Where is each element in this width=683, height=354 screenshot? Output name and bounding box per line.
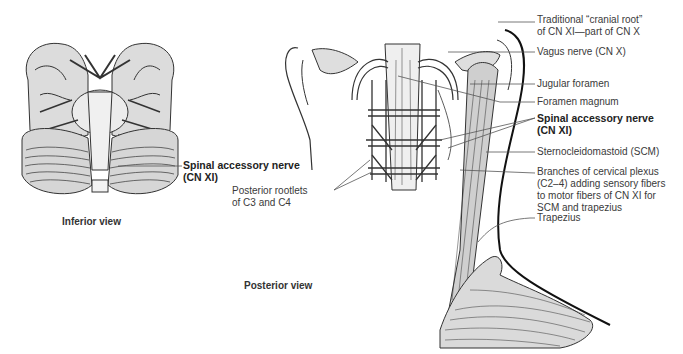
label-cervical-plexus: Branches of cervical plexus (C2–4) addin… bbox=[537, 166, 665, 214]
caption-posterior-view: Posterior view bbox=[244, 280, 312, 291]
label-line: Traditional “cranial root” bbox=[537, 14, 642, 26]
label-line: Posterior rootlets bbox=[232, 185, 308, 197]
label-jugular-foramen: Jugular foramen bbox=[537, 78, 609, 90]
label-line: Spinal accessory nerve bbox=[537, 112, 654, 124]
label-sternocleidomastoid: Sternocleidomastoid (SCM) bbox=[537, 146, 659, 158]
leader-lines bbox=[334, 22, 535, 242]
label-line: Branches of cervical plexus bbox=[537, 166, 665, 178]
label-line: of C3 and C4 bbox=[232, 197, 308, 209]
label-cranial-root: Traditional “cranial root” of CN XI—part… bbox=[537, 14, 642, 38]
label-line: of CN XI—part of CN X bbox=[537, 26, 642, 38]
label-line: (CN XI) bbox=[537, 124, 654, 136]
label-vagus-nerve: Vagus nerve (CN X) bbox=[537, 46, 626, 58]
label-line: (CN XI) bbox=[183, 171, 300, 183]
brain-inferior-view bbox=[22, 43, 178, 193]
label-line: to motor fibers of CN XI for bbox=[537, 190, 665, 202]
label-line: (C2–4) adding sensory fibers bbox=[537, 178, 665, 190]
label-foramen-magnum: Foramen magnum bbox=[537, 96, 619, 108]
label-posterior-rootlets: Posterior rootlets of C3 and C4 bbox=[232, 185, 308, 209]
label-spinal-accessory-nerve: Spinal accessory nerve (CN XI) bbox=[537, 112, 654, 136]
caption-inferior-view: Inferior view bbox=[62, 216, 121, 227]
label-trapezius: Trapezius bbox=[537, 212, 581, 224]
label-inferior-spinal-accessory: Spinal accessory nerve (CN XI) bbox=[183, 159, 300, 183]
label-line: Spinal accessory nerve bbox=[183, 159, 300, 171]
